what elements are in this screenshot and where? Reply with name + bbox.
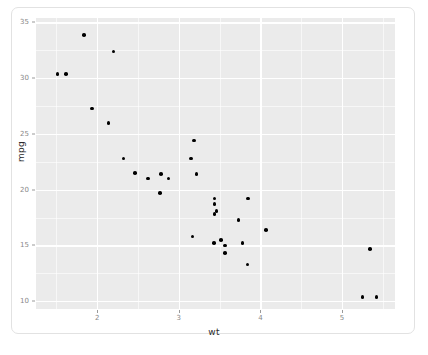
scatter-point (122, 157, 126, 161)
gridline-minor-vertical (138, 18, 139, 309)
scatter-point (368, 247, 372, 251)
y-tick-label: 30 (7, 74, 29, 82)
scatter-point (90, 107, 94, 111)
scatter-point (189, 157, 193, 161)
y-tick-label: 15 (7, 241, 29, 249)
scatter-point (191, 235, 195, 239)
gridline-major-horizontal (36, 134, 395, 135)
x-tick-mark (97, 310, 98, 313)
scatter-point (246, 263, 250, 267)
gridline-major-horizontal (36, 190, 395, 191)
scatter-point (213, 197, 217, 201)
y-tick-label: 10 (7, 297, 29, 305)
scatter-point (56, 72, 60, 76)
y-tick-mark (32, 78, 35, 79)
x-tick-label: 3 (170, 314, 188, 322)
scatter-point (133, 171, 137, 175)
gridline-major-vertical (342, 18, 343, 309)
scatter-point (223, 244, 227, 248)
y-tick-mark (32, 22, 35, 23)
y-tick-mark (32, 301, 35, 302)
gridline-major-vertical (97, 18, 98, 309)
scatter-point (213, 212, 217, 216)
scatter-point (158, 191, 162, 195)
plot-viewport: mpg wt 101520253035 2345 (0, 0, 428, 355)
gridline-minor-vertical (56, 18, 57, 309)
scatter-point (167, 177, 171, 181)
y-axis-title: mpg (16, 148, 26, 162)
x-tick-label: 2 (88, 314, 106, 322)
gridline-major-vertical (260, 18, 261, 309)
scatter-point (107, 121, 111, 125)
scatter-point (64, 72, 68, 76)
x-axis-title: wt (32, 327, 396, 337)
y-tick-label: 20 (7, 186, 29, 194)
scatter-point (361, 295, 365, 299)
scatter-point (264, 228, 268, 232)
scatter-point (195, 172, 199, 176)
scatter-point (192, 139, 196, 143)
scatter-point (213, 202, 217, 206)
gridline-minor-vertical (383, 18, 384, 309)
gridline-major-horizontal (36, 78, 395, 79)
x-tick-label: 4 (251, 314, 269, 322)
y-tick-mark (32, 133, 35, 134)
scatter-point (82, 33, 86, 37)
y-tick-mark (32, 245, 35, 246)
gridline-major-horizontal (36, 245, 395, 246)
scatter-point (237, 218, 241, 222)
x-tick-mark (179, 310, 180, 313)
scatter-point (375, 295, 379, 299)
gridline-minor-vertical (301, 18, 302, 309)
scatter-point (223, 251, 227, 255)
scatter-point (146, 177, 150, 181)
gridline-major-horizontal (36, 22, 395, 23)
y-tick-label: 25 (7, 130, 29, 138)
x-tick-label: 5 (333, 314, 351, 322)
plot-panel (36, 18, 395, 309)
scatter-point (246, 197, 250, 201)
gridline-minor-vertical (220, 18, 221, 309)
y-tick-mark (32, 189, 35, 190)
x-tick-mark (342, 310, 343, 313)
gridline-major-horizontal (36, 301, 395, 302)
scatter-point (159, 172, 163, 176)
y-tick-label: 35 (7, 18, 29, 26)
x-tick-mark (260, 310, 261, 313)
gridline-major-vertical (179, 18, 180, 309)
scatter-point (219, 238, 223, 242)
scatter-point (112, 50, 116, 54)
